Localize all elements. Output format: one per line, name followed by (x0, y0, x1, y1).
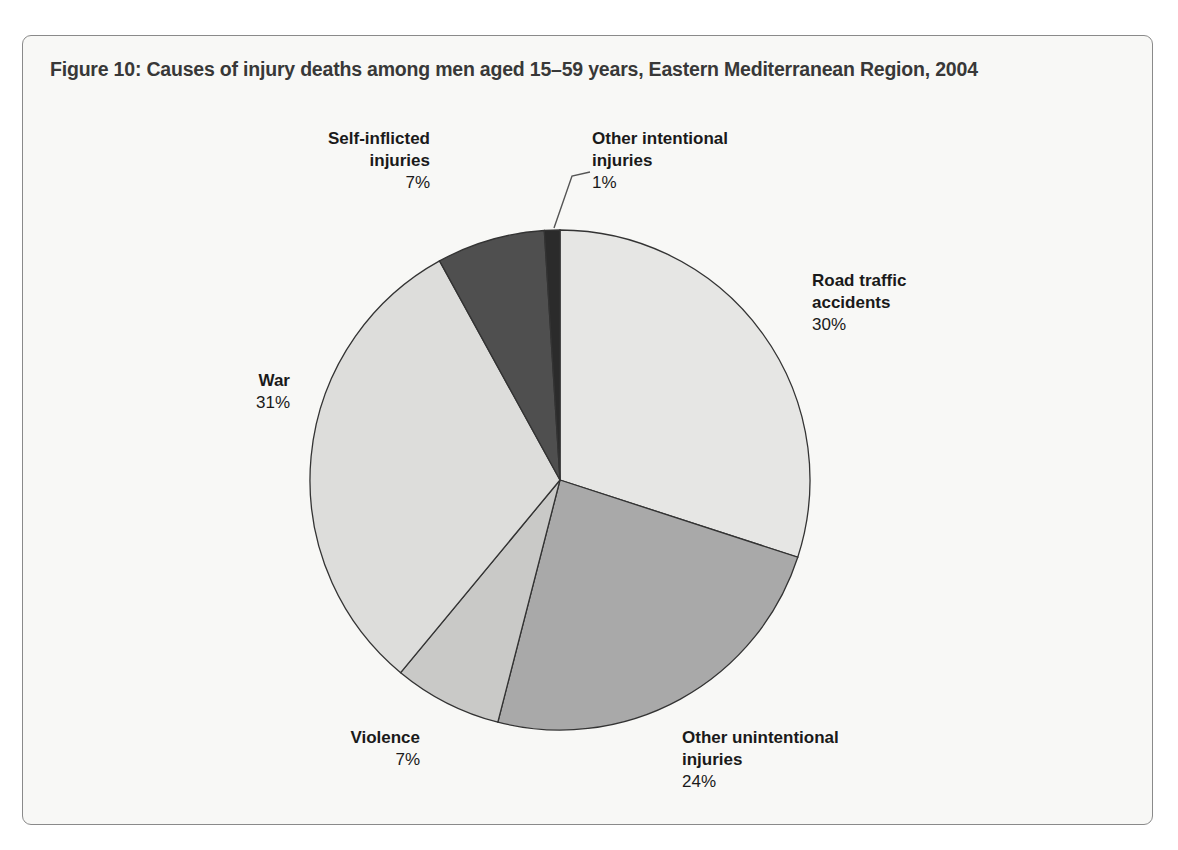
pie-label-violence-value: 7% (250, 749, 420, 771)
pie-label-self-inflicted-injuries-line1: Self-inflicted (250, 128, 430, 150)
pie-label-other-intentional-injuries: Other intentional injuries 1% (592, 128, 812, 193)
pie-label-violence-line1: Violence (250, 727, 420, 749)
pie-label-violence: Violence 7% (250, 727, 420, 771)
pie-label-war-line1: War (160, 370, 290, 392)
pie-label-other-intentional-injuries-line2: injuries (592, 150, 812, 172)
pie-label-road-traffic-accidents-line1: Road traffic (812, 270, 1042, 292)
pie-label-self-inflicted-injuries-value: 7% (250, 172, 430, 194)
pie-label-other-intentional-injuries-line1: Other intentional (592, 128, 812, 150)
pie-label-self-inflicted-injuries: Self-inflicted injuries 7% (250, 128, 430, 193)
pie-label-road-traffic-accidents: Road traffic accidents 30% (812, 270, 1042, 335)
pie-label-other-unintentional-injuries: Other unintentional injuries 24% (682, 727, 942, 792)
pie-chart (0, 0, 1178, 850)
pie-label-road-traffic-accidents-value: 30% (812, 314, 1042, 336)
pie-label-road-traffic-accidents-line2: accidents (812, 292, 1042, 314)
pie-label-war: War 31% (160, 370, 290, 414)
pie-label-war-value: 31% (160, 392, 290, 414)
pie-label-other-unintentional-injuries-value: 24% (682, 771, 942, 793)
pie-label-other-intentional-injuries-value: 1% (592, 172, 812, 194)
pie-label-other-unintentional-injuries-line1: Other unintentional (682, 727, 942, 749)
pie-label-self-inflicted-injuries-line2: injuries (250, 150, 430, 172)
leader-line-other-intentional (554, 172, 590, 228)
pie-slice-group (310, 230, 810, 730)
pie-label-other-unintentional-injuries-line2: injuries (682, 749, 942, 771)
